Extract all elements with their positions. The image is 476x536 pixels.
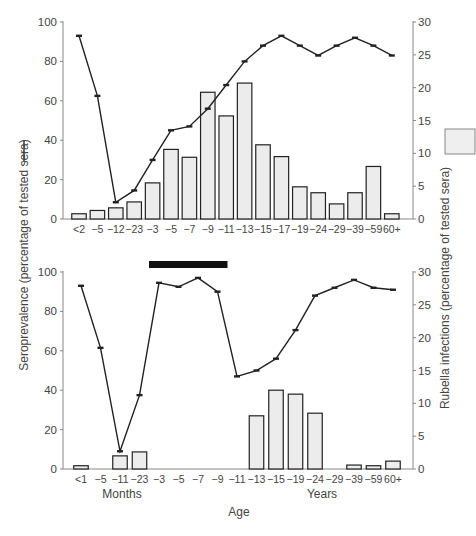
left-axis-title: Seroprevalence (percentage of tested ser… [17, 139, 31, 370]
bar [127, 202, 142, 219]
right-tick-label: 5 [418, 180, 424, 192]
bar [145, 183, 160, 219]
line-marker [242, 60, 248, 62]
line-marker [131, 189, 137, 191]
bar [182, 157, 197, 219]
line-marker [371, 287, 377, 289]
years-label: Years [307, 487, 337, 501]
right-tick-label: 30 [418, 266, 431, 278]
right-tick-label: 25 [418, 49, 431, 61]
bar [219, 116, 234, 219]
bar [237, 83, 252, 219]
category-label: −15 [254, 223, 272, 235]
bar [132, 452, 147, 469]
category-label: −11 [228, 473, 245, 485]
line-marker [351, 279, 357, 281]
line-marker [195, 277, 201, 279]
line-marker [76, 35, 82, 37]
bar [288, 394, 303, 469]
category-label: −3 [153, 473, 165, 485]
line-marker [176, 286, 182, 288]
left-tick-label: 100 [38, 16, 57, 28]
line-marker [113, 201, 119, 203]
right-tick-label: 10 [418, 147, 431, 159]
category-label: −39 [346, 223, 364, 235]
category-label: −9 [202, 223, 214, 235]
bar [164, 149, 179, 219]
line-marker [297, 44, 303, 46]
right-tick-label: 20 [418, 82, 431, 94]
category-label: −12 [107, 223, 125, 235]
line-marker [78, 285, 84, 287]
bar-legend-swatch [445, 129, 475, 154]
bar [201, 92, 216, 219]
line-marker [293, 329, 299, 331]
bottom-panel: 020406080100051015202530<1−5−11−23−3−5−7… [38, 261, 431, 485]
category-label: −5 [91, 223, 103, 235]
right-axis-title-group: Rubella infections (percentage of tested… [438, 129, 475, 409]
right-tick-label: 0 [418, 463, 424, 475]
category-label: −3 [147, 223, 159, 235]
right-tick-label: 15 [418, 365, 431, 377]
period-annotation-bar [149, 261, 228, 268]
line-marker [352, 37, 358, 39]
bar [90, 210, 105, 219]
category-label: −17 [272, 223, 290, 235]
line-marker [390, 289, 396, 291]
bar [311, 193, 326, 219]
category-label: −11 [111, 473, 128, 485]
line-marker [260, 44, 266, 46]
bar [109, 208, 124, 219]
bar [256, 145, 271, 219]
left-tick-label: 80 [44, 305, 57, 317]
line-marker [312, 294, 318, 296]
category-label: −13 [236, 223, 254, 235]
left-tick-label: 0 [51, 463, 57, 475]
line-marker [223, 84, 229, 86]
line-marker [205, 107, 211, 109]
left-tick-label: 20 [44, 174, 57, 186]
category-label: −59 [365, 473, 383, 485]
category-label: −5 [165, 223, 177, 235]
line-marker [98, 347, 104, 349]
category-label: <1 [75, 473, 87, 485]
category-label: −29 [328, 223, 346, 235]
bar [348, 193, 363, 219]
right-tick-label: 20 [418, 332, 431, 344]
category-label: −24 [309, 223, 327, 235]
category-label: −39 [345, 473, 363, 485]
bar [329, 204, 344, 219]
left-tick-label: 80 [44, 55, 57, 67]
bar [249, 416, 264, 469]
line-marker [334, 44, 340, 46]
category-label: −7 [192, 473, 204, 485]
category-label: −29 [326, 473, 344, 485]
category-label: −5 [95, 473, 107, 485]
line-marker [389, 54, 395, 56]
line-marker [332, 287, 338, 289]
bar [72, 214, 87, 219]
line-marker [234, 375, 240, 377]
left-tick-label: 60 [44, 95, 57, 107]
category-label: <2 [73, 223, 85, 235]
left-tick-label: 0 [51, 213, 57, 225]
line-marker [215, 291, 221, 293]
right-tick-label: 25 [418, 299, 431, 311]
category-label: −59 [364, 223, 382, 235]
bar [274, 157, 289, 219]
bar [347, 465, 362, 469]
category-label: −5 [173, 473, 185, 485]
category-label: −23 [131, 473, 149, 485]
line-marker [254, 369, 260, 371]
line-marker [370, 44, 376, 46]
line-marker [137, 394, 143, 396]
left-tick-label: 40 [44, 384, 57, 396]
right-axis-title: Rubella infections (percentage of tested… [438, 167, 452, 409]
x-axis-title: Age [228, 505, 250, 519]
left-tick-label: 20 [44, 424, 57, 436]
line-marker [156, 282, 162, 284]
line-marker [168, 129, 174, 131]
line-marker [315, 54, 321, 56]
left-tick-label: 40 [44, 134, 57, 146]
category-label: −19 [287, 473, 305, 485]
